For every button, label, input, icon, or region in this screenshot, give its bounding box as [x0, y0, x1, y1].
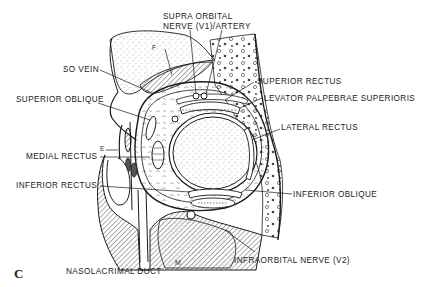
label-superior-rectus: SUPERIOR RECTUS: [257, 78, 342, 86]
region-letter-ethmoid: E: [100, 145, 105, 152]
label-inferior-oblique: INFERIOR OBLIQUE: [293, 191, 377, 199]
label-supraorbital-2: NERVE (V1)/ARTERY: [163, 23, 251, 31]
label-lateral-rectus: LATERAL RECTUS: [281, 124, 358, 132]
region-letter-frontal: F: [152, 44, 156, 51]
panel-letter: C: [14, 266, 23, 282]
label-infraorbital-nerve: INFRAORBITAL NERVE (V2): [234, 257, 350, 265]
label-supraorbital-1: SUPRA ORBITAL: [163, 13, 233, 21]
label-nasolacrimal-duct: NASOLACRIMAL DUCT: [66, 268, 162, 276]
globe: [169, 113, 257, 193]
label-so-vein: SO VEIN: [63, 66, 99, 74]
label-inferior-rectus: INFERIOR RECTUS: [16, 182, 97, 190]
label-medial-rectus: MEDIAL RECTUS: [26, 153, 97, 161]
label-levator: LEVATOR PALPEBRAE SUPERIORIS: [264, 95, 415, 103]
region-letter-maxillary: M: [175, 259, 181, 266]
label-superior-oblique: SUPERIOR OBLIQUE: [16, 96, 104, 104]
orbit-cross-section-drawing: [0, 0, 424, 287]
